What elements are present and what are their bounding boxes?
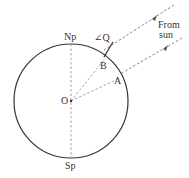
arrow-icon <box>163 45 168 51</box>
radius-oa <box>71 78 120 101</box>
center-dot <box>70 100 72 102</box>
label-point-b: B <box>100 60 107 71</box>
label-center: O <box>61 95 68 106</box>
label-sun: sun <box>159 29 173 40</box>
label-point-a: A <box>114 75 122 86</box>
earth-diagram: Np Sp O B A ∠Q From sun <box>0 0 189 178</box>
label-north-pole: Np <box>64 31 76 42</box>
sun-ray-lower <box>120 38 182 74</box>
label-angle-q: ∠Q <box>94 32 110 43</box>
arrow-icon <box>152 15 157 21</box>
label-south-pole: Sp <box>65 160 76 171</box>
